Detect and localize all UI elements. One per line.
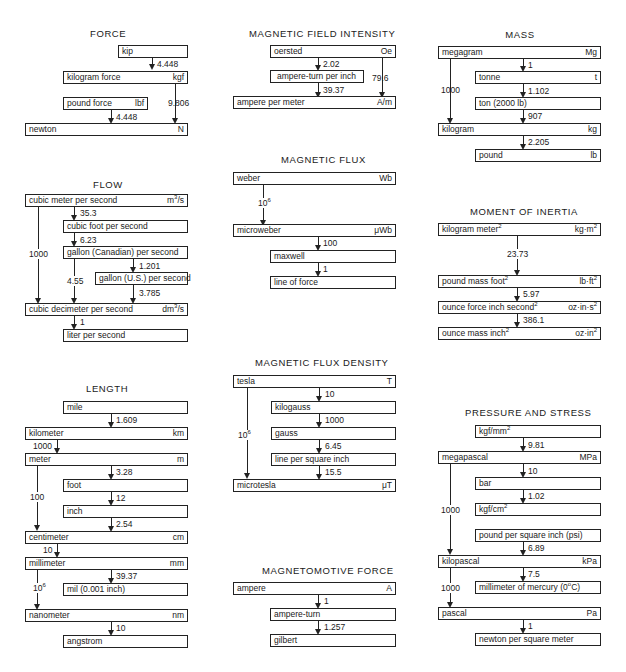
section-title-magnetic-flux: MAGNETIC FLUX (281, 154, 345, 165)
unit-box-liter-per-second: liter per second (63, 329, 188, 342)
unit-box-ounce-force-inch-second-squared: ounce force inch second2 oz·in·s2 (438, 301, 601, 314)
unit-box-nanometer: nanometer nm (25, 609, 188, 622)
factor-label: 1.102 (528, 86, 549, 96)
factor-label: 79.6 (372, 73, 389, 83)
unit-box-mil: mil (0.001 inch) (63, 583, 188, 596)
factor-label: 106 (258, 198, 271, 208)
factor-label: 3.785 (139, 288, 160, 298)
factor-label: 907 (528, 111, 542, 121)
unit-box-foot: foot (63, 479, 188, 492)
unit-box-oersted: oersted Oe (270, 45, 396, 58)
unit-box-ampere-turn-per-inch: ampere-turn per inch (270, 70, 364, 83)
factor-label: 1.201 (139, 261, 160, 271)
unit-box-maxwell: maxwell (270, 250, 396, 263)
unit-box-ounce-mass-inch-squared: ounce mass inch2 oz·in2 (438, 327, 601, 340)
factor-label: 1000 (441, 583, 460, 593)
factor-label: 1000 (29, 249, 48, 259)
section-title-force: FORCE (90, 28, 120, 39)
factor-label: 1000 (325, 415, 344, 425)
unit-box-cubic-meter-per-second: cubic meter per second m3/s (25, 194, 188, 207)
unit-box-newton: newton N (25, 123, 188, 136)
section-title-moment-of-inertia: MOMENT OF INERTIA (470, 206, 570, 217)
unit-box-bar: bar (475, 477, 601, 490)
unit-box-kgf-per-mm2: kgf/mm2 (475, 425, 601, 438)
factor-label: 35.3 (80, 208, 97, 218)
factor-label: 10 (43, 545, 52, 555)
unit-box-pascal: pascal Pa (438, 607, 601, 620)
factor-label: 2.02 (323, 59, 340, 69)
factor-label: 2.54 (116, 519, 133, 529)
factor-label: 106 (238, 430, 251, 440)
factor-label: 1 (528, 621, 533, 631)
unit-box-angstrom: angstrom (63, 635, 188, 648)
unit-box-microweber: microweber μWb (233, 224, 396, 237)
unit-box-ton-2000-lb: ton (2000 lb) (475, 97, 601, 110)
unit-box-meter: meter m (25, 453, 188, 466)
unit-box-kilopascal: kilopascal kPa (438, 555, 601, 568)
unit-box-tonne: tonne t (475, 71, 601, 84)
unit-box-pound-mass-foot-squared: pound mass foot2 lb·ft2 (438, 275, 601, 288)
unit-box-newton-per-square-meter: newton per square meter (475, 633, 601, 646)
factor-label: 39.37 (323, 85, 344, 95)
unit-box-kilogauss: kilogauss (271, 401, 396, 414)
factor-label: 1000 (33, 441, 52, 451)
unit-box-millimeter: millimeter mm (25, 557, 188, 570)
factor-label: 1.257 (324, 622, 345, 632)
factor-label: 6.23 (80, 235, 97, 245)
factor-label: 1.02 (528, 491, 545, 501)
unit-box-pound-per-square-inch: pound per square inch (psi) (475, 529, 601, 542)
unit-box-kilogram: kilogram kg (438, 123, 601, 136)
unit-box-megagram: megagram Mg (438, 46, 601, 59)
unit-box-centimeter: centimeter cm (25, 531, 188, 544)
unit-box-tesla: tesla T (233, 375, 396, 388)
factor-label: 1 (80, 317, 85, 327)
unit-box-line-of-force: line of force (270, 276, 396, 289)
factor-label: 1000 (441, 505, 460, 515)
factor-label: 1.609 (116, 415, 137, 425)
factor-label: 1 (323, 264, 328, 274)
unit-box-line-per-square-inch: line per square inch (271, 453, 396, 466)
factor-label: 23.73 (507, 249, 528, 259)
unit-box-kip: kip (118, 45, 188, 58)
unit-box-kgf-per-cm2: kgf/cm2 (475, 503, 601, 516)
section-title-magnetomotive-force: MAGNETOMOTIVE FORCE (262, 565, 376, 576)
unit-box-inch: inch (63, 505, 188, 518)
factor-label: 3.28 (116, 467, 133, 477)
unit-box-microtesla: microtesla μT (233, 479, 396, 492)
factor-label: 1 (528, 60, 533, 70)
factor-label: 10 (325, 389, 334, 399)
factor-label: 100 (30, 492, 44, 502)
unit-box-cubic-decimeter-per-second: cubic decimeter per second dm3/s (25, 303, 188, 316)
unit-box-mile: mile (63, 401, 188, 414)
unit-box-ampere-turn: ampere-turn (270, 608, 396, 621)
factor-label: 4.448 (116, 112, 137, 122)
section-title-length: LENGTH (86, 383, 124, 394)
unit-box-pound-force: pound force lbf (63, 97, 148, 110)
unit-box-gallon-us-per-second: gallon (U.S.) per second (95, 272, 188, 285)
unit-box-pound: pound lb (475, 149, 601, 162)
factor-label: 5.97 (523, 289, 540, 299)
section-title-magnetic-flux-density: MAGNETIC FLUX DENSITY (255, 357, 373, 368)
factor-label: 7.5 (528, 569, 540, 579)
factor-label: 2.205 (528, 137, 549, 147)
factor-label: 4.448 (157, 59, 178, 69)
unit-box-kilogram-meter-squared: kilogram meter2 kg·m2 (438, 223, 601, 236)
factor-label: 100 (323, 238, 337, 248)
unit-box-ampere: ampere A (233, 582, 396, 595)
factor-label: 10 (116, 623, 125, 633)
factor-label: 12 (116, 493, 125, 503)
factor-label: 1 (324, 596, 329, 606)
factor-label: 10 (528, 466, 537, 476)
unit-box-megapascal: megapascal MPa (438, 451, 601, 464)
unit-box-weber: weber Wb (233, 172, 396, 185)
arrow-down-icon (149, 64, 155, 70)
factor-label: 386.1 (523, 315, 544, 325)
section-title-magnetic-field-intensity: MAGNETIC FIELD INTENSITY (249, 28, 379, 39)
factor-label: 6.45 (325, 441, 342, 451)
factor-label: 6.89 (528, 543, 545, 553)
factor-label: 15.5 (325, 467, 342, 477)
section-title-mass: MASS (505, 29, 535, 40)
unit-box-kilometer: kilometer km (25, 427, 188, 440)
factor-label: 39.37 (116, 571, 137, 581)
factor-label: 9.806 (168, 98, 189, 108)
